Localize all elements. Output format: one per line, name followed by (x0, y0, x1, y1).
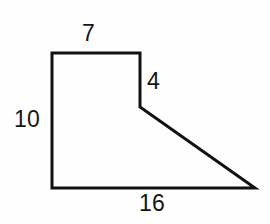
polygon-shape (0, 0, 270, 224)
figure-canvas: 7 10 4 16 (0, 0, 270, 224)
dimension-label-bottom: 16 (139, 192, 165, 215)
dimension-label-notch: 4 (147, 70, 160, 93)
dimension-label-left: 10 (14, 108, 40, 131)
dimension-label-top: 7 (82, 22, 95, 45)
